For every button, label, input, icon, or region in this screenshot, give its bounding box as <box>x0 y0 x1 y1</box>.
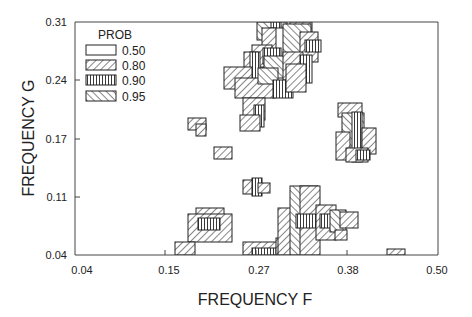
legend-title: PROB <box>98 28 132 42</box>
probability-cell <box>387 249 405 255</box>
x-axis: 0.04 0.15 0.27 0.38 0.50 FREQUENCY F <box>71 250 447 308</box>
probability-cell <box>198 218 220 230</box>
y-axis-title: FREQUENCY G <box>20 79 37 196</box>
y-tick-label: 0.24 <box>46 74 67 86</box>
probability-cell <box>258 183 270 193</box>
swatch-vertical-hatch-icon <box>86 75 116 85</box>
swatch-forward-hatch-icon <box>86 60 116 70</box>
chart: 0.04 0.15 0.27 0.38 0.50 FREQUENCY F 0.0… <box>0 0 472 317</box>
y-tick-label: 0.11 <box>46 191 67 203</box>
probability-cell <box>240 115 260 131</box>
probability-cell <box>196 124 206 136</box>
probability-cell <box>214 147 232 159</box>
x-tick-label: 0.27 <box>248 264 269 276</box>
y-tick-label: 0.04 <box>46 249 67 261</box>
probability-cell <box>340 212 358 228</box>
legend-entry-080: 0.80 <box>86 59 146 73</box>
legend-entry-090: 0.90 <box>86 74 146 88</box>
probability-cells <box>175 22 405 255</box>
y-tick-label: 0.31 <box>46 16 67 28</box>
probability-cell <box>335 230 347 240</box>
svg-text:0.50: 0.50 <box>122 44 146 58</box>
svg-text:0.95: 0.95 <box>122 90 146 104</box>
x-tick-label: 0.38 <box>337 264 358 276</box>
probability-cell <box>286 64 306 92</box>
legend-entry-095: 0.95 <box>86 90 146 104</box>
x-tick-label: 0.50 <box>426 264 447 276</box>
svg-text:0.90: 0.90 <box>122 74 146 88</box>
legend-entry-050: 0.50 <box>86 44 146 58</box>
y-tick-label: 0.17 <box>46 133 67 145</box>
svg-text:0.80: 0.80 <box>122 59 146 73</box>
swatch-empty-icon <box>86 45 116 55</box>
swatch-back-hatch-icon <box>86 91 116 101</box>
y-axis: 0.04 0.11 0.17 0.24 0.31 FREQUENCY G <box>20 16 80 261</box>
x-tick-label: 0.04 <box>71 264 92 276</box>
x-tick-label: 0.15 <box>158 264 179 276</box>
legend: PROB 0.50 0.80 0.90 0.95 <box>86 28 146 104</box>
x-axis-title: FREQUENCY F <box>198 291 313 308</box>
probability-cell <box>305 40 321 52</box>
probability-cell <box>356 150 370 160</box>
probability-cell <box>175 242 195 255</box>
